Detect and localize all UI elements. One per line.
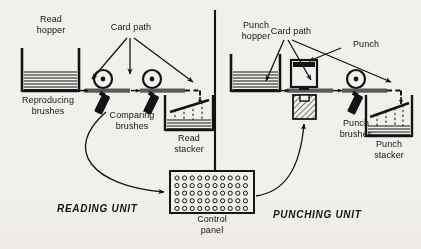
punch-hopper xyxy=(231,54,280,92)
punch-head-block xyxy=(291,60,317,90)
reading-unit-title: READING UNIT xyxy=(57,203,138,214)
reading-card-path-track xyxy=(79,89,200,98)
read-stacker-label: Read stacker xyxy=(159,133,219,154)
punch-brushes-label: Punch brushes xyxy=(325,118,387,139)
control-panel[interactable] xyxy=(170,160,254,213)
control-panel-label: Control panel xyxy=(182,214,242,235)
punch-brush-assembly xyxy=(347,91,363,115)
figure-canvas: Read hopper Card path Reproducing brushe… xyxy=(0,0,421,249)
punch-die-block xyxy=(293,95,316,119)
punch-stacker-label: Punch stacker xyxy=(359,139,419,160)
feed-roller xyxy=(94,70,161,88)
control-to-punching-link xyxy=(256,124,304,196)
punching-unit-title: PUNCHING UNIT xyxy=(273,209,362,220)
feed-roller-punch xyxy=(347,70,365,88)
card-path-label-left: Card path xyxy=(96,22,166,33)
read-hopper xyxy=(22,48,79,92)
comparing-brushes-label: Comparing brushes xyxy=(94,110,170,131)
reproducing-brushes-label: Reproducing brushes xyxy=(6,95,90,116)
read-stacker xyxy=(165,95,213,131)
card-path-label-right: Card path xyxy=(256,26,326,37)
punch-label: Punch xyxy=(343,39,389,50)
read-hopper-label: Read hopper xyxy=(16,14,86,35)
